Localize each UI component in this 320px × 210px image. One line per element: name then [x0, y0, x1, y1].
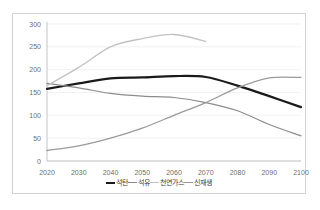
legend-label: 천연가스 [160, 179, 184, 186]
axis-lines [47, 22, 301, 161]
y-axis-tick-label: 0 [19, 158, 41, 165]
series-line [47, 76, 301, 107]
legend-item[interactable]: 석탄 [106, 179, 128, 186]
y-axis-tick-label: 150 [19, 89, 41, 96]
legend-item[interactable]: 신재생 [184, 179, 212, 186]
legend-label: 석유 [138, 179, 150, 186]
y-axis-tick-label: 200 [19, 66, 41, 73]
legend-line-swatch [128, 182, 137, 183]
x-axis-tick-label: 2100 [288, 169, 314, 176]
legend-item[interactable]: 천연가스 [150, 179, 184, 186]
series-line [47, 83, 301, 136]
y-axis-tick-label: 100 [19, 112, 41, 119]
x-axis-tick-label: 2030 [66, 169, 92, 176]
legend-item[interactable]: 석유 [128, 179, 150, 186]
chart-figure: 050100150200250300 202020302040205020602… [12, 13, 306, 194]
x-axis-tick-label: 2020 [34, 169, 60, 176]
legend-label: 석탄 [116, 179, 128, 186]
gridlines [47, 24, 301, 161]
y-axis-tick-label: 50 [19, 135, 41, 142]
chart-legend: 석탄석유천연가스신재생 [13, 179, 305, 186]
legend-line-swatch [106, 182, 115, 184]
legend-label: 신재생 [194, 179, 212, 186]
y-axis-tick-label: 300 [19, 21, 41, 28]
x-axis-tick-label: 2080 [225, 169, 251, 176]
x-axis-tick-label: 2090 [256, 169, 282, 176]
line-chart-plot [13, 14, 307, 195]
y-axis-tick-label: 250 [19, 43, 41, 50]
legend-line-swatch [184, 182, 193, 183]
series-line [47, 77, 301, 150]
legend-line-swatch [150, 182, 159, 183]
x-axis-tick-label: 2050 [129, 169, 155, 176]
x-axis-tick-label: 2040 [98, 169, 124, 176]
x-axis-tick-label: 2060 [161, 169, 187, 176]
x-axis-tick-label: 2070 [193, 169, 219, 176]
